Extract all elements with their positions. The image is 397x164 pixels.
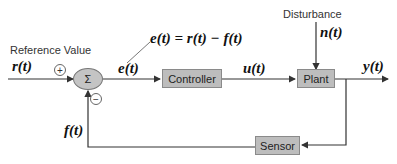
- minus-sign: −: [90, 93, 102, 105]
- error-signal-label: e(t): [118, 60, 139, 77]
- control-signal-label: u(t): [243, 60, 266, 77]
- sensor-block: Sensor: [255, 136, 300, 155]
- r-signal-label: r(t): [12, 58, 32, 75]
- disturbance-label: Disturbance: [283, 8, 342, 20]
- error-equation: e(t) = r(t) − f(t): [150, 30, 243, 47]
- controller-block: Controller: [162, 69, 222, 88]
- plus-sign: +: [54, 64, 66, 76]
- disturbance-signal-label: n(t): [320, 24, 343, 41]
- feedback-signal-label: f(t): [64, 122, 83, 139]
- summing-junction: Σ: [73, 68, 103, 90]
- reference-value-label: Reference Value: [10, 44, 91, 56]
- plant-block: Plant: [297, 69, 335, 88]
- output-signal-label: y(t): [363, 58, 384, 75]
